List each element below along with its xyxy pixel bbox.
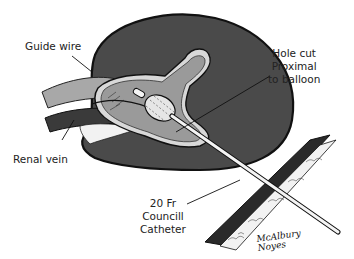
label-guide-wire: Guide wire (25, 40, 81, 53)
label-hole-cut: Hole cut Proximal to balloon (268, 47, 320, 86)
label-line: Councill (140, 210, 186, 223)
label-line: 20 Fr (140, 197, 186, 210)
label-line: Hole cut (268, 47, 320, 60)
label-catheter: 20 Fr Councill Catheter (140, 197, 186, 236)
label-renal-vein: Renal vein (13, 153, 68, 166)
label-line: Catheter (140, 223, 186, 236)
label-line: Proximal (268, 60, 320, 73)
label-line: to balloon (268, 73, 320, 86)
